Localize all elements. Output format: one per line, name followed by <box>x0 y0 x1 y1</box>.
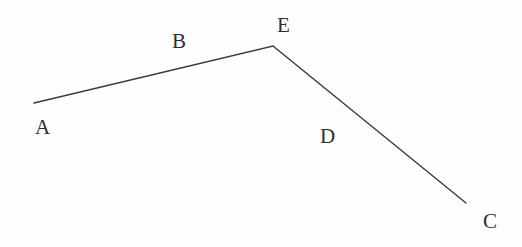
vertex-label-e: E <box>277 15 290 36</box>
figure-canvas: A E C B D <box>0 0 522 247</box>
vertex-label-c: C <box>483 211 497 232</box>
segment-label-d: D <box>320 126 335 147</box>
geometry-diagram <box>0 0 522 247</box>
vertex-label-a: A <box>35 117 50 138</box>
segment-label-b: B <box>172 31 186 52</box>
angle-polyline <box>34 46 466 203</box>
